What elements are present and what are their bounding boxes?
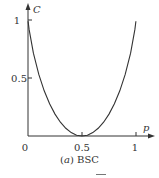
y-tick-label-0.5: 0.5 bbox=[11, 73, 27, 84]
y-axis-label: C bbox=[33, 4, 41, 15]
figure-caption: (a) BSC bbox=[0, 154, 159, 165]
y-tick-label-1: 1 bbox=[14, 15, 20, 26]
decorative-mark bbox=[96, 174, 106, 175]
bsc-capacity-chart: C p 1 0.5 0 0.5 1 bbox=[0, 0, 159, 178]
caption-paren-close: ) bbox=[70, 154, 74, 165]
x-axis-label: p bbox=[143, 122, 150, 133]
capacity-curve bbox=[28, 21, 136, 136]
x-axis-arrow-icon bbox=[148, 134, 155, 139]
x-tick-label-0.5: 0.5 bbox=[74, 142, 90, 153]
x-tick-label-0: 0 bbox=[22, 142, 28, 153]
y-axis-arrow-icon bbox=[26, 3, 31, 10]
caption-text: BSC bbox=[77, 154, 99, 165]
x-tick-label-1: 1 bbox=[132, 142, 138, 153]
